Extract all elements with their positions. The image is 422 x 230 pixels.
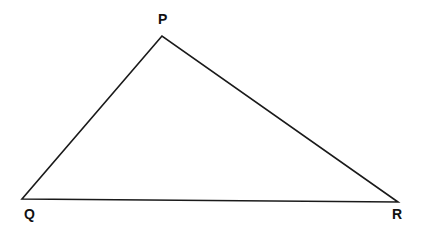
vertex-label-q: Q: [24, 206, 35, 222]
triangle-pqr: [22, 36, 398, 202]
vertex-label-r: R: [392, 206, 402, 222]
vertex-label-p: P: [158, 11, 167, 27]
triangle-diagram: P Q R: [0, 0, 422, 230]
